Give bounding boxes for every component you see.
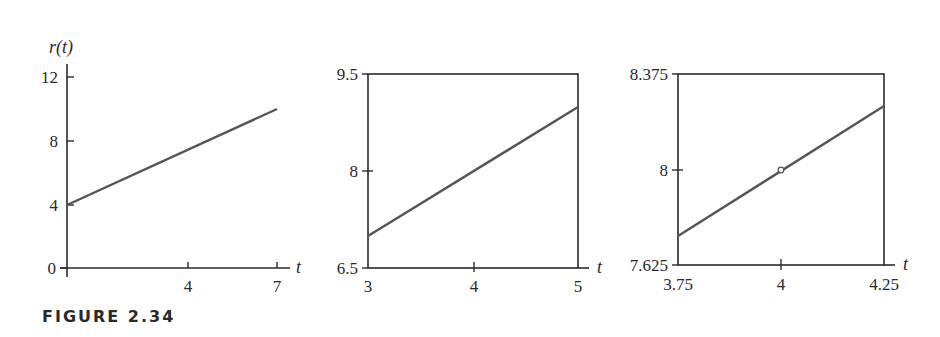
panel-2: 9.5 8 6.5 3 4 5 t bbox=[337, 65, 603, 296]
y-tick-label: 8 bbox=[50, 132, 59, 151]
x-tick-label: 4 bbox=[184, 277, 193, 296]
y-tick-label: 12 bbox=[41, 68, 58, 87]
y-tick-label: 4 bbox=[50, 196, 59, 215]
y-tick-label: 0 bbox=[48, 259, 57, 278]
x-tick-label: 4 bbox=[470, 277, 479, 296]
x-tick-label: 4.25 bbox=[869, 275, 899, 294]
y-tick-label: 6.5 bbox=[337, 259, 358, 278]
x-tick-label: 7 bbox=[273, 277, 282, 296]
x-tick-label: 4 bbox=[777, 275, 786, 294]
y-tick-label: 8 bbox=[660, 161, 669, 180]
figure-caption: FIGURE 2.34 bbox=[42, 307, 175, 326]
x-tick-label: 3 bbox=[364, 277, 373, 296]
panel-3: 8.375 8 7.625 3.75 4 4.25 t bbox=[630, 65, 909, 294]
panel-1: r(t) 12 8 4 0 4 7 t bbox=[41, 37, 302, 296]
y-tick-label: 8.375 bbox=[630, 65, 668, 84]
panel-1-y-axis-label: r(t) bbox=[49, 37, 73, 58]
panel-3-x-axis-label: t bbox=[903, 254, 909, 274]
panel-2-line bbox=[368, 107, 578, 236]
y-tick-label: 9.5 bbox=[337, 65, 358, 84]
figure-2-34: r(t) 12 8 4 0 4 7 t 9.5 8 6.5 3 4 5 t bbox=[0, 0, 940, 337]
y-tick-label: 7.625 bbox=[630, 256, 668, 275]
panel-1-line bbox=[67, 109, 277, 205]
y-tick-label: 8 bbox=[350, 162, 359, 181]
panel-1-x-axis-label: t bbox=[296, 257, 302, 277]
x-tick-label: 3.75 bbox=[663, 275, 693, 294]
hole-marker bbox=[778, 167, 784, 173]
x-tick-label: 5 bbox=[574, 277, 583, 296]
panel-2-x-axis-label: t bbox=[597, 257, 603, 277]
